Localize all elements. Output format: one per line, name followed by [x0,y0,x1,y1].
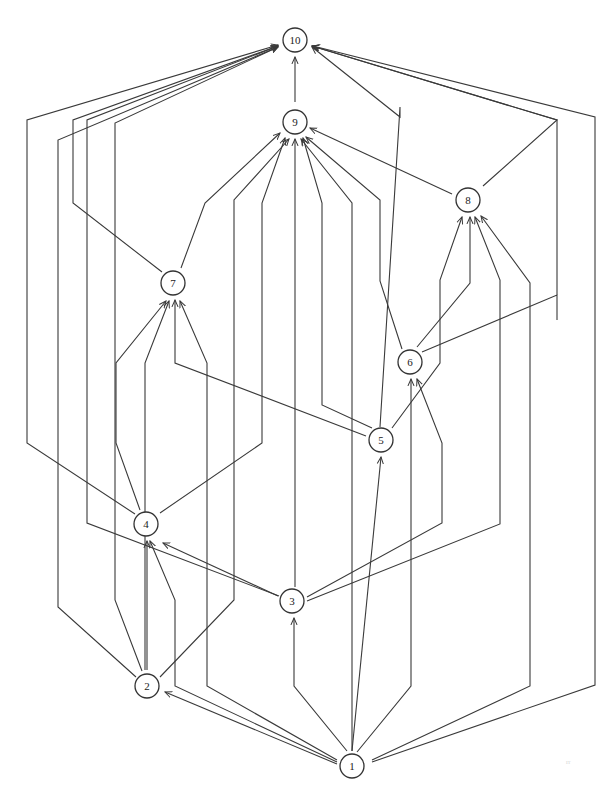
edge-layer [27,45,595,764]
edge-1-to-5 [352,457,381,751]
node-3: 3 [280,589,304,613]
node-label: 6 [407,356,413,368]
scan-artifact-text: rr [566,758,571,766]
edge-5-to-7 [175,300,366,436]
edge-4-to-7 [116,301,166,510]
edge-6-to-9 [306,137,402,349]
edge-1-to-8 [372,216,530,760]
node-4: 4 [134,512,158,536]
directed-graph: 12345678910 rr [0,0,613,789]
edge-8-to-10 [312,46,557,186]
edge-5-to-6 [392,217,462,428]
edge-3-to-4 [163,543,278,596]
edge-6-to-8 [417,217,470,347]
node-2: 2 [135,674,159,698]
edge-7-to-9 [181,133,280,268]
node-label: 9 [292,116,298,128]
edge-1-to-7 [180,301,337,760]
edge-3-to-10 [87,46,279,596]
edge-7-to-10 [73,46,278,272]
node-label: 10 [290,34,302,46]
edge-1-to-9 [301,139,352,751]
node-5: 5 [369,428,393,452]
edge-4-to-9 [160,138,285,513]
node-label: 4 [143,518,149,530]
node-8: 8 [456,188,480,212]
node-6: 6 [398,350,422,374]
edge-1-to-10 [313,46,595,762]
node-9: 9 [283,110,307,134]
node-label: 5 [378,434,384,446]
edge-1-to-2 [165,692,337,764]
edge-2-to-7 [115,47,278,671]
edge-8-to-9 [310,128,452,194]
edge-2-to-9 [160,139,289,677]
edge-1-to-3 [294,618,347,751]
node-label: 3 [289,595,295,607]
edge-4-to-10 [27,45,278,514]
edge-5-to-10 [312,47,400,427]
node-label: 2 [144,680,150,692]
node-label: 7 [170,277,176,289]
node-10: 10 [283,28,307,52]
edge-3-to-8 [307,217,500,601]
edge-3-to-6 [307,379,442,597]
node-1: 1 [340,754,364,778]
edge-1-to-4 [150,541,337,762]
edge-2-to-7 [145,301,169,670]
node-label: 1 [349,760,355,772]
node-7: 7 [161,271,185,295]
node-label: 8 [465,194,471,206]
node-layer: 12345678910 [134,28,480,778]
edge-5-to-9 [303,138,372,428]
